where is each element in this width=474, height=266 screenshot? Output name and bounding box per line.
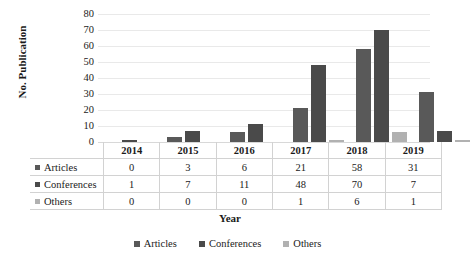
table-row-label-text: Conferences (44, 179, 96, 190)
legend-label: Articles (144, 238, 177, 249)
bar-group (350, 14, 413, 142)
bar-group (161, 14, 224, 142)
table-header-2019: 2019 (385, 142, 441, 159)
legend-swatch-icon (134, 241, 140, 247)
bar-articles-2019 (419, 92, 434, 142)
data-table: 201420152016201720182019Articles03621583… (30, 142, 442, 210)
y-axis-tick-label: 50 (84, 57, 95, 67)
table-row-label-articles: Articles (30, 159, 104, 176)
table-row-header: 201420152016201720182019 (30, 142, 441, 159)
x-axis-title: Year (30, 212, 430, 224)
table-cell-conferences-2015: 7 (160, 176, 216, 193)
bar-conferences-2015 (185, 131, 200, 142)
legend-item-others[interactable]: Others (283, 238, 321, 249)
y-axis-tick-label: 60 (84, 41, 95, 51)
table-corner-cell (30, 142, 104, 159)
legend-item-conferences[interactable]: Conferences (199, 238, 261, 249)
y-axis-tick-label: 10 (84, 121, 95, 131)
table-header-2014: 2014 (104, 142, 160, 159)
bar-conferences-2016 (248, 124, 263, 142)
table-cell-others-2015: 0 (160, 193, 216, 210)
plot-area (98, 14, 430, 142)
table-cell-articles-2019: 31 (385, 159, 441, 176)
legend-swatch-icon (283, 241, 289, 247)
legend-item-articles[interactable]: Articles (134, 238, 177, 249)
table-row-label-others: Others (30, 193, 104, 210)
table-cell-articles-2014: 0 (104, 159, 160, 176)
y-axis-tick-label: 30 (84, 89, 95, 99)
table-cell-conferences-2014: 1 (104, 176, 160, 193)
bar-conferences-2017 (311, 65, 326, 142)
legend-swatch-icon (199, 241, 205, 247)
table-cell-others-2016: 0 (216, 193, 272, 210)
y-axis-tick-label: 80 (84, 9, 95, 19)
y-axis-tick-label: 20 (84, 105, 95, 115)
series-swatch-icon (35, 165, 40, 170)
y-axis-tick-labels: 01020304050607080 (62, 14, 94, 142)
bar-groups (98, 14, 430, 142)
data-table-body: 201420152016201720182019Articles03621583… (30, 142, 441, 210)
bar-others-2019 (455, 140, 470, 142)
table-cell-others-2014: 0 (104, 193, 160, 210)
bar-group (98, 14, 161, 142)
bar-articles-2018 (356, 49, 371, 142)
table-header-2015: 2015 (160, 142, 216, 159)
bar-articles-2017 (293, 108, 308, 142)
table-cell-conferences-2017: 48 (272, 176, 328, 193)
table-row-label-conferences: Conferences (30, 176, 104, 193)
table-cell-articles-2016: 6 (216, 159, 272, 176)
table-row: Articles036215831 (30, 159, 441, 176)
table-header-2018: 2018 (329, 142, 385, 159)
table-cell-others-2017: 1 (272, 193, 328, 210)
table-cell-others-2018: 6 (329, 193, 385, 210)
table-cell-others-2019: 1 (385, 193, 441, 210)
y-axis-title: No. Publication (16, 2, 28, 122)
bar-conferences-2018 (374, 30, 389, 142)
series-swatch-icon (35, 199, 40, 204)
legend-label: Others (293, 238, 321, 249)
table-cell-articles-2017: 21 (272, 159, 328, 176)
bar-conferences-2019 (437, 131, 452, 142)
table-cell-articles-2018: 58 (329, 159, 385, 176)
table-row-label-text: Others (44, 196, 72, 207)
table-cell-articles-2015: 3 (160, 159, 216, 176)
series-swatch-icon (35, 182, 40, 187)
table-cell-conferences-2016: 11 (216, 176, 272, 193)
bar-group (413, 14, 474, 142)
table-header-2016: 2016 (216, 142, 272, 159)
y-axis-tick-label: 40 (84, 73, 95, 83)
y-axis-tick-label: 70 (84, 25, 95, 35)
table-cell-conferences-2018: 70 (329, 176, 385, 193)
bar-articles-2016 (230, 132, 245, 142)
table-cell-conferences-2019: 7 (385, 176, 441, 193)
table-header-2017: 2017 (272, 142, 328, 159)
table-row: Others000161 (30, 193, 441, 210)
chart-legend: ArticlesConferencesOthers (0, 238, 455, 249)
bar-others-2018 (392, 132, 407, 142)
table-row: Conferences171148707 (30, 176, 441, 193)
table-row-label-text: Articles (44, 162, 77, 173)
bar-group (224, 14, 287, 142)
legend-label: Conferences (209, 238, 261, 249)
bar-group (287, 14, 350, 142)
